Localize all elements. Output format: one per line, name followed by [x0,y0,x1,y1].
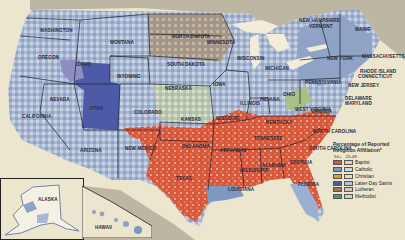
state-label-north-carolina: NORTH CAROLINA [313,129,356,134]
state-label-north-dakota: NORTH DAKOTA [172,34,210,39]
legend-swatch-low [344,167,353,172]
state-label-kentucky: KENTUCKY [266,120,292,125]
legend-column-headers: 50+ 25-49 [334,154,405,159]
state-label-virginia: VIRGINIA [311,109,332,114]
state-label-wisconsin: WISCONSIN [237,56,264,61]
state-label-tennessee: TENNESSEE [254,136,283,141]
legend-col-low: 25-49 [345,154,356,159]
legend: Percentage of Reported Religious Affilia… [333,142,405,200]
state-label-arizona: ARIZONA [80,148,102,153]
state-label-vermont: VERMONT [309,24,333,29]
legend-label: Latter-Day Saints [355,181,392,186]
state-label-oklahoma: OKLAHOMA [182,144,210,149]
state-label-alaska: ALASKA [38,197,58,202]
legend-swatch-high [333,194,342,199]
legend-swatch-high [333,174,342,179]
state-label-new-jersey: NEW JERSEY [348,83,379,88]
legend-item-catholic: Catholic [333,166,405,172]
legend-item-christian: Christian [333,173,405,179]
legend-swatch-high [333,167,342,172]
legend-rows: BaptistCatholicChristianLatter-Day Saint… [333,160,405,200]
state-label-maryland: MARYLAND [345,101,372,106]
state-label-louisiana: LOUISIANA [228,187,254,192]
legend-title-line2: Religious Affiliation* [333,148,405,154]
state-label-oregon: OREGON [38,55,59,60]
alaska-inset [0,178,84,240]
state-label-ohio: OHIO [283,92,295,97]
state-label-maine: MAINE [355,27,370,32]
state-label-new-hampshire: NEW HAMPSHIRE [299,18,340,23]
state-label-florida: FLORIDA [298,182,319,187]
legend-item-baptist: Baptist [333,160,405,166]
religion-map: WASHINGTONOREGONMONTANAIDAHOWYOMINGNEVAD… [0,0,405,240]
legend-label: Methodist [355,194,376,199]
state-label-mississippi: MISSISSIPPI [240,168,268,173]
state-label-utah: UTAH [90,106,103,111]
legend-swatch-high [333,160,342,165]
legend-swatch-low [344,194,353,199]
state-label-massachusetts: MASSACHUSETTS [362,54,405,59]
state-label-connecticut: CONNECTICUT [358,74,393,79]
state-label-georgia: GEORGIA [290,160,312,165]
alaska-shape [1,179,83,239]
state-label-nevada: NEVADA [50,97,70,102]
state-label-montana: MONTANA [110,40,134,45]
state-label-indiana: INDIANA [260,97,280,102]
state-label-washington: WASHINGTON [40,28,73,33]
legend-item-latter-day-saints: Latter-Day Saints [333,180,405,186]
state-label-missouri: MISSOURI [216,116,240,121]
state-label-california: CALIFORNIA [22,114,51,119]
state-label-nebraska: NEBRASKA [165,86,192,91]
state-label-arkansas: ARKANSAS [220,148,247,153]
state-label-kansas: KANSAS [181,117,201,122]
legend-label: Lutheran [355,187,374,192]
state-label-pennsylvania: PENNSYLVANIA [305,80,342,85]
state-label-illinois: ILLINOIS [240,101,260,106]
legend-item-lutheran: Lutheran [333,187,405,193]
hawaii-inset [82,186,152,238]
state-label-minnesota: MINNESOTA [207,40,235,45]
legend-swatch-high [333,181,342,186]
legend-item-methodist: Methodist [333,193,405,199]
state-label-michigan: MICHIGAN [265,66,289,71]
state-label-new-mexico: NEW MEXICO [125,146,156,151]
legend-label: Catholic [355,167,372,172]
state-label-texas: TEXAS [176,176,192,181]
legend-swatch-low [344,187,353,192]
state-label-south-dakota: SOUTH DAKOTA [167,62,205,67]
state-label-new-york: NEW YORK [327,56,353,61]
state-label-idaho: IDAHO [76,62,91,67]
state-label-iowa: IOWA [213,82,226,87]
state-label-colorado: COLORADO [134,110,162,115]
state-label-wyoming: WYOMING [117,74,141,79]
legend-label: Christian [355,174,374,179]
legend-swatch-high [333,187,342,192]
state-label-alabama: ALABAMA [262,163,286,168]
state-label-hawaii: HAWAII [95,225,112,230]
legend-swatch-low [344,181,353,186]
legend-col-high: 50+ [334,154,341,159]
legend-swatch-low [344,174,353,179]
legend-label: Baptist [355,160,370,165]
legend-swatch-low [344,160,353,165]
